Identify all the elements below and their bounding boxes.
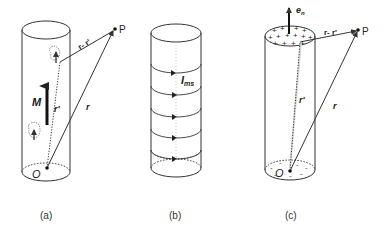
panel-c: + + + + + + + + + + + + + + - - - - - - … bbox=[265, 5, 369, 221]
r-prime-label: r' bbox=[54, 104, 61, 114]
normal-vector-label: en bbox=[296, 5, 305, 16]
r-prime-label: r' bbox=[299, 95, 306, 105]
current-loop-5 bbox=[151, 150, 201, 159]
current-loop-1 bbox=[151, 64, 201, 73]
cylinder-b bbox=[151, 24, 201, 177]
panel-b: Ims (b) bbox=[151, 24, 201, 221]
current-loop-5-back bbox=[151, 150, 201, 159]
current-loop-4 bbox=[151, 129, 201, 138]
caption-b: (b) bbox=[169, 210, 181, 221]
point-p-dot bbox=[113, 27, 117, 31]
cylinder-top-ellipse bbox=[22, 21, 70, 39]
positive-surface-charges: + + + + + + + + + + + + + + bbox=[268, 24, 313, 48]
svg-text:+: + bbox=[282, 39, 287, 48]
dipole-domain-lower bbox=[28, 122, 40, 140]
caption-a: (a) bbox=[40, 210, 52, 221]
cylinder-bottom-front bbox=[151, 168, 201, 177]
point-p-dot bbox=[356, 28, 360, 32]
svg-text:-: - bbox=[270, 163, 273, 172]
vector-r-prime bbox=[47, 62, 60, 168]
svg-text:-: - bbox=[296, 160, 299, 169]
svg-text:-: - bbox=[300, 169, 303, 178]
magnetization-label: M bbox=[32, 96, 42, 108]
origin-dot bbox=[45, 166, 49, 170]
svg-text:+: + bbox=[273, 39, 278, 48]
svg-text:-: - bbox=[279, 158, 282, 167]
r-minus-r-prime-label: r- r' bbox=[324, 28, 337, 37]
point-p-label: P bbox=[362, 26, 369, 37]
cylinder-bottom-front bbox=[22, 172, 70, 181]
dipole-domain-upper bbox=[50, 46, 60, 63]
origin-dot bbox=[288, 169, 292, 173]
point-p-label: P bbox=[119, 24, 126, 35]
origin-label: O bbox=[275, 167, 284, 179]
current-label: Ims bbox=[181, 74, 194, 87]
arrowhead-2 bbox=[172, 92, 177, 98]
arrowhead-1 bbox=[171, 70, 176, 76]
svg-text:-: - bbox=[305, 163, 308, 172]
cylinder-top-ellipse bbox=[151, 24, 201, 42]
panel-a: M r' r r- r' P O (a) bbox=[22, 21, 126, 221]
magnetic-cylinder-diagram: M r' r r- r' P O (a) bbox=[0, 0, 385, 232]
r-label: r bbox=[333, 101, 337, 111]
cylinder-bottom-back bbox=[151, 159, 201, 168]
r-label: r bbox=[86, 102, 90, 112]
origin-label: O bbox=[32, 168, 41, 180]
svg-text:+: + bbox=[291, 39, 296, 48]
current-loop-3 bbox=[151, 108, 201, 117]
r-minus-r-prime-label: r- r' bbox=[77, 37, 93, 51]
current-arrowheads bbox=[171, 70, 177, 162]
caption-c: (c) bbox=[285, 210, 297, 221]
